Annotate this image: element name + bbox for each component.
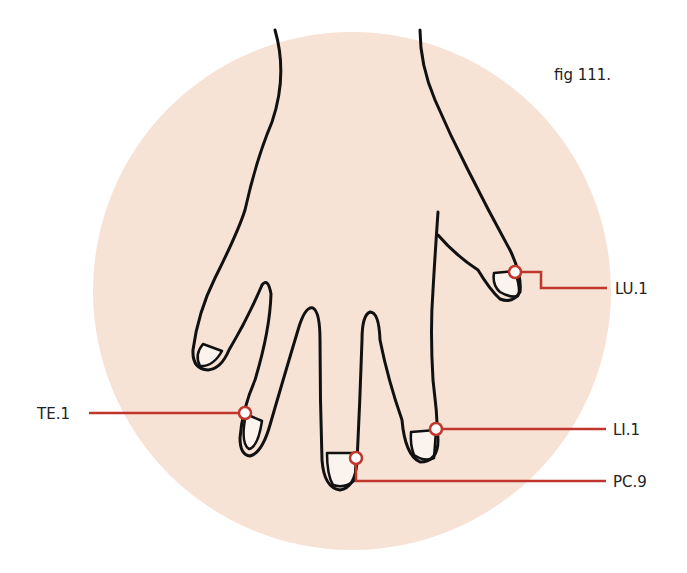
label-te1: TE.1: [36, 405, 70, 423]
acupuncture-hand-diagram: fig 111. LU.1 TE.1 LI.1 PC.9: [0, 0, 687, 573]
label-lu1: LU.1: [615, 280, 648, 298]
label-pc9: PC.9: [613, 473, 647, 491]
marker-te1: [239, 407, 251, 419]
marker-pc9: [350, 452, 362, 464]
marker-li1: [430, 423, 442, 435]
label-li1: LI.1: [613, 421, 640, 439]
marker-lu1: [509, 266, 521, 278]
figure-caption: fig 111.: [554, 66, 611, 84]
